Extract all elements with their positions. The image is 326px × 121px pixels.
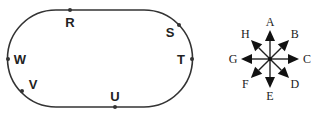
point-label-v: V — [29, 77, 38, 92]
arrow-shaft-f — [259, 59, 270, 70]
point-label-u: U — [110, 89, 119, 104]
arrow-head-a-icon — [265, 30, 275, 41]
compass-rose: ABCDEFGH — [229, 15, 311, 103]
direction-label-d: D — [290, 77, 299, 91]
direction-label-a: A — [266, 15, 275, 29]
arrow-shaft-d — [270, 59, 281, 70]
point-dot-t — [190, 57, 194, 61]
point-dot-r — [68, 8, 72, 12]
arrow-head-g-icon — [241, 54, 252, 64]
direction-label-g: G — [229, 52, 238, 66]
point-label-w: W — [14, 52, 27, 67]
point-dot-s — [177, 23, 181, 27]
arrow-shaft-b — [270, 48, 281, 59]
arrow-head-c-icon — [288, 54, 299, 64]
compass-center — [268, 57, 272, 61]
direction-label-f: F — [242, 77, 249, 91]
direction-label-c: C — [303, 52, 311, 66]
track-points: RSTUVW — [6, 8, 194, 109]
direction-label-e: E — [266, 89, 273, 103]
point-label-t: T — [177, 52, 185, 67]
point-label-r: R — [65, 15, 75, 30]
point-dot-w — [6, 57, 10, 61]
arrow-shaft-h — [259, 48, 270, 59]
direction-label-b: B — [291, 27, 299, 41]
point-dot-u — [113, 105, 117, 109]
diagram-canvas: RSTUVW ABCDEFGH — [0, 0, 326, 121]
direction-label-h: H — [241, 27, 250, 41]
point-label-s: S — [166, 25, 175, 40]
arrow-head-e-icon — [265, 77, 275, 88]
point-dot-v — [20, 89, 24, 93]
